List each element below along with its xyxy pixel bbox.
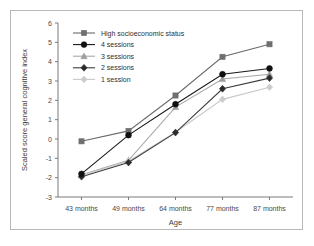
series-3 [78, 71, 272, 177]
x-tick-label: 77 months [206, 205, 239, 212]
y-tick-label: 1 [48, 116, 52, 123]
y-tick-label: 3 [48, 78, 52, 85]
legend-label: 3 sessions [101, 53, 135, 60]
x-tick-label: 43 months [65, 205, 98, 212]
x-tick-label: 49 months [112, 205, 145, 212]
y-tick-label: 0 [48, 136, 52, 143]
legend-label: 4 sessions [101, 41, 135, 48]
x-tick-label: 64 months [159, 205, 192, 212]
legend-label: High socioeconomic status [101, 30, 185, 38]
data-point [173, 101, 179, 107]
y-axis-title: Scaled score general cognitive index [20, 49, 29, 171]
y-tick-label: 5 [48, 39, 52, 46]
series-4 [78, 75, 272, 180]
legend-label: 2 sessions [101, 64, 135, 71]
data-point [267, 42, 272, 47]
data-point [79, 171, 85, 177]
data-point [267, 66, 273, 72]
data-point [220, 71, 226, 77]
data-point [126, 132, 132, 138]
line-chart: -3-2-1012345643 months49 months64 months… [11, 11, 302, 229]
y-tick-label: 6 [48, 20, 52, 27]
legend-marker [81, 64, 87, 71]
legend-marker [81, 76, 87, 83]
legend: High socioeconomic status4 sessions3 ses… [73, 30, 185, 83]
legend-marker [81, 42, 87, 48]
data-point [173, 93, 178, 98]
figure-container: -3-2-1012345643 months49 months64 months… [10, 10, 303, 230]
data-point [220, 54, 225, 59]
data-point [219, 96, 225, 103]
series-line [82, 74, 270, 175]
x-axis-title: Age [169, 218, 182, 227]
y-tick-label: -3 [46, 194, 52, 201]
y-tick-label: -2 [46, 174, 52, 181]
x-tick-label: 87 months [253, 205, 286, 212]
y-tick-label: 2 [48, 97, 52, 104]
legend-marker [81, 30, 86, 35]
data-point [79, 139, 84, 144]
data-point [266, 84, 272, 91]
legend-label: 1 session [101, 76, 131, 83]
y-tick-label: -1 [46, 155, 52, 162]
y-tick-label: 4 [48, 58, 52, 65]
